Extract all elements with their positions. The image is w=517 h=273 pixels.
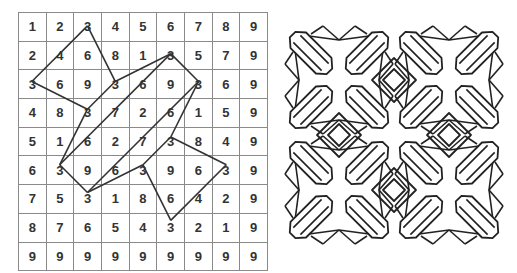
grid-cell: 3 [157, 127, 185, 156]
grid-cell: 5 [46, 185, 74, 214]
grid-row: 483726159 [19, 99, 268, 128]
grid-cell: 7 [212, 41, 240, 70]
grid-cell: 9 [240, 127, 268, 156]
grid-cell: 3 [74, 13, 102, 42]
grid-cell: 6 [19, 156, 47, 185]
grid-cell: 9 [129, 242, 157, 271]
grid-cell: 3 [19, 70, 47, 99]
grid-cell: 7 [129, 127, 157, 156]
grid-cell: 8 [184, 127, 212, 156]
grid-cell: 5 [101, 213, 129, 242]
grid-cell: 3 [157, 41, 185, 70]
grid-row: 246813579 [19, 41, 268, 70]
grid-cell: 3 [129, 156, 157, 185]
grid-cell: 3 [184, 70, 212, 99]
multiplication-digit-grid: 1234567892468135793693693694837261595162… [18, 12, 268, 271]
grid-cell: 1 [212, 213, 240, 242]
grid-cell: 9 [74, 70, 102, 99]
grid-cell: 4 [19, 99, 47, 128]
grid-cell: 4 [129, 213, 157, 242]
grid-cell: 6 [212, 70, 240, 99]
pattern-motif [395, 136, 503, 244]
grid-cell: 9 [101, 242, 129, 271]
grid-cell: 3 [46, 156, 74, 185]
grid-cell: 1 [19, 13, 47, 42]
grid-cell: 6 [157, 13, 185, 42]
grid-cell: 2 [19, 41, 47, 70]
grid-cell: 9 [240, 213, 268, 242]
grid-cell: 3 [74, 185, 102, 214]
grid-row: 639639639 [19, 156, 268, 185]
grid-cell: 6 [46, 70, 74, 99]
grid-cell: 9 [157, 156, 185, 185]
grid-cell: 9 [46, 242, 74, 271]
grid-cell: 6 [74, 213, 102, 242]
grid-cell: 7 [19, 185, 47, 214]
connector-lattice [372, 58, 416, 102]
grid-cell: 9 [240, 13, 268, 42]
grid-cell: 9 [212, 242, 240, 271]
grid-cell: 4 [212, 127, 240, 156]
grid-cell: 1 [184, 99, 212, 128]
grid-cell: 6 [101, 156, 129, 185]
grid-cell: 1 [46, 127, 74, 156]
grid-cell: 9 [240, 156, 268, 185]
grid-cell: 5 [212, 99, 240, 128]
grid-cell: 6 [157, 185, 185, 214]
grid-row: 753186429 [19, 185, 268, 214]
grid-cell: 9 [240, 242, 268, 271]
grid-cell: 8 [212, 13, 240, 42]
grid-cell: 7 [46, 213, 74, 242]
grid-cell: 8 [101, 41, 129, 70]
pattern-motif [285, 26, 393, 134]
grid-cell: 2 [129, 99, 157, 128]
grid-cell: 9 [184, 242, 212, 271]
grid-cell: 4 [46, 41, 74, 70]
grid-cell: 5 [184, 41, 212, 70]
grid-cell: 3 [101, 70, 129, 99]
grid-cell: 2 [184, 213, 212, 242]
grid-cell: 2 [46, 13, 74, 42]
grid-cell: 9 [240, 185, 268, 214]
grid-cell: 3 [74, 99, 102, 128]
grid-cell: 9 [157, 70, 185, 99]
grid-cell: 5 [129, 13, 157, 42]
grid-row: 369369369 [19, 70, 268, 99]
grid-cell: 4 [184, 185, 212, 214]
grid-cell: 8 [129, 185, 157, 214]
pattern-motif [285, 136, 393, 244]
grid-cell: 8 [19, 213, 47, 242]
grid-cell: 9 [240, 41, 268, 70]
grid-cell: 1 [129, 41, 157, 70]
grid-cell: 7 [184, 13, 212, 42]
grid-cell: 5 [19, 127, 47, 156]
grid-cell: 2 [212, 185, 240, 214]
grid-row: 999999999 [19, 242, 268, 271]
grid-cell: 9 [74, 242, 102, 271]
grid-cell: 9 [74, 156, 102, 185]
connector-lattice [372, 168, 416, 212]
grid-cell: 7 [101, 99, 129, 128]
grid-row: 123456789 [19, 13, 268, 42]
grid-row: 876543219 [19, 213, 268, 242]
grid-cell: 2 [101, 127, 129, 156]
grid-cell: 9 [240, 99, 268, 128]
grid-cell: 8 [46, 99, 74, 128]
grid-cell: 9 [240, 70, 268, 99]
grid-cell: 3 [212, 156, 240, 185]
grid-cell: 6 [129, 70, 157, 99]
grid-cell: 9 [157, 242, 185, 271]
grid-cell: 6 [157, 99, 185, 128]
grid-cell: 6 [74, 41, 102, 70]
grid-cell: 6 [74, 127, 102, 156]
connector-lattice [427, 113, 471, 157]
connector-lattice [317, 113, 361, 157]
geometric-star-pattern [280, 15, 510, 255]
pattern-motif [395, 26, 503, 134]
grid-cell: 9 [19, 242, 47, 271]
grid-cell: 4 [101, 13, 129, 42]
grid-cell: 3 [157, 213, 185, 242]
grid-row: 516273849 [19, 127, 268, 156]
grid-cell: 6 [184, 156, 212, 185]
grid-cell: 1 [101, 185, 129, 214]
